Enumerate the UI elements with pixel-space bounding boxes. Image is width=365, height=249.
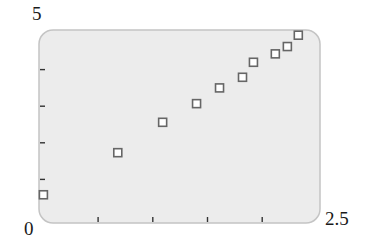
origin-label: 0 <box>24 219 34 238</box>
data-point-marker <box>294 31 302 39</box>
data-point-marker <box>239 73 247 81</box>
y-axis-max-label: 5 <box>32 4 42 23</box>
data-point-marker <box>193 100 201 108</box>
data-point-marker <box>249 58 257 66</box>
data-point-marker <box>283 43 291 51</box>
x-axis-max-label: 2.5 <box>325 209 349 228</box>
plot-area <box>0 0 365 249</box>
data-point-marker <box>271 50 279 58</box>
scatter-chart: 5 0 2.5 <box>0 0 365 249</box>
data-point-marker <box>216 84 224 92</box>
data-point-marker <box>114 149 122 157</box>
data-point-marker <box>159 118 167 126</box>
plot-frame <box>39 30 320 223</box>
data-point-marker <box>39 191 47 199</box>
